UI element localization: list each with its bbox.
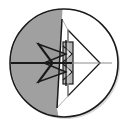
detail-view-container: Detail view Circular detail bubble showi… bbox=[0, 0, 128, 128]
technical-drawing-svg bbox=[0, 0, 128, 128]
